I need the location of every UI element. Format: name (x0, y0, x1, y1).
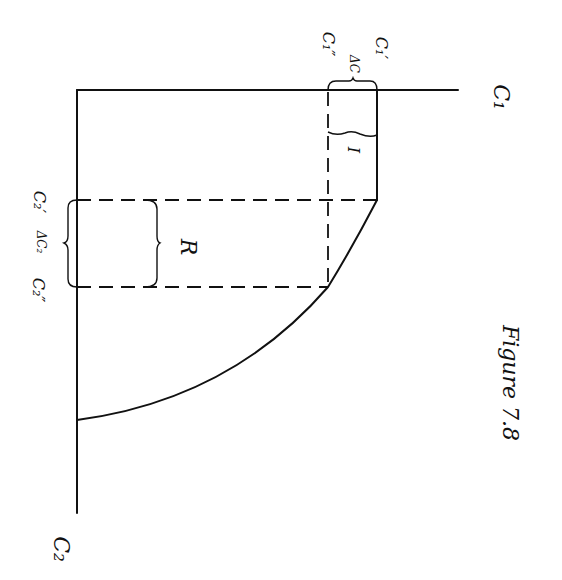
c2-prime-label: C₂′ (31, 191, 47, 213)
delta-c1-label: ΔC (348, 55, 360, 73)
figure-caption: Figure 7.8 (499, 325, 521, 441)
c2-double-prime-label: C₂″ (30, 278, 46, 303)
axis-c2-label: C₂ (50, 536, 72, 562)
brace-delta-c2 (64, 200, 77, 287)
region-r-label: R (177, 239, 199, 256)
region-i-label: I (345, 147, 361, 153)
delta-c2-label: ΔC₂ (35, 231, 47, 254)
c1-double-prime-label: C₁″ (320, 32, 336, 57)
brace-i (328, 132, 377, 137)
figure-diagram (0, 0, 562, 580)
brace-r (145, 200, 160, 287)
axis-c1-label: C₁ (490, 84, 512, 110)
frontier-curve (77, 200, 377, 420)
brace-delta-c1 (328, 78, 377, 90)
c1-prime-label: C₁′ (373, 37, 389, 59)
